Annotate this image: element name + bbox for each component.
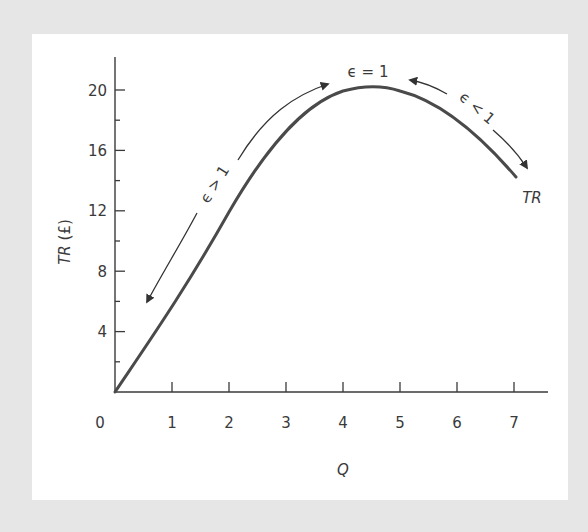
y-axis-title: TR (£) bbox=[56, 219, 74, 265]
y-tick-12: 12 bbox=[88, 202, 107, 220]
x-tick-6: 6 bbox=[452, 414, 462, 432]
tr-curve bbox=[115, 87, 516, 392]
tr-chart: 4 8 12 16 20 0 1 2 3 4 5 6 7 Q TR (£) ϵ … bbox=[0, 0, 588, 532]
y-tick-20: 20 bbox=[88, 82, 107, 100]
unit-elastic-label: ϵ = 1 bbox=[348, 63, 389, 81]
x-tick-2: 2 bbox=[224, 414, 234, 432]
x-tick-4: 4 bbox=[338, 414, 348, 432]
x-tick-0: 0 bbox=[95, 414, 105, 432]
y-tick-8: 8 bbox=[97, 263, 107, 281]
x-tick-1: 1 bbox=[167, 414, 177, 432]
inelastic-arrow-up bbox=[410, 80, 447, 94]
x-tick-7: 7 bbox=[509, 414, 519, 432]
y-ticks bbox=[115, 90, 125, 362]
elastic-label: ϵ > 1 bbox=[196, 162, 233, 206]
curve-label: TR bbox=[522, 189, 542, 207]
x-tick-5: 5 bbox=[395, 414, 405, 432]
x-tick-3: 3 bbox=[281, 414, 291, 432]
y-tick-4: 4 bbox=[97, 323, 107, 341]
x-ticks bbox=[172, 382, 514, 392]
y-tick-16: 16 bbox=[88, 142, 107, 160]
inelastic-arrow-down bbox=[493, 130, 527, 168]
elastic-arrow-down bbox=[147, 213, 197, 302]
x-axis-title: Q bbox=[337, 461, 349, 479]
x-tick-labels: 0 1 2 3 4 5 6 7 bbox=[95, 414, 519, 432]
elastic-arrow-up bbox=[238, 84, 328, 160]
y-tick-labels: 4 8 12 16 20 bbox=[88, 82, 107, 341]
